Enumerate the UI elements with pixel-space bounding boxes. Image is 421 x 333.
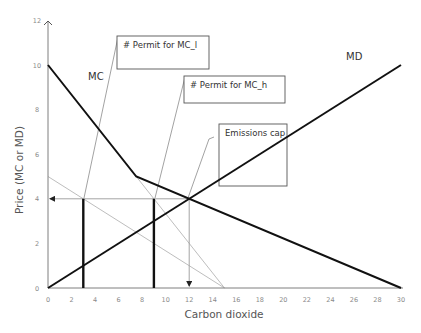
x-tick-label: 8 xyxy=(140,296,144,304)
callout-boxes: # Permit for MC_l# Permit for MC_hEmissi… xyxy=(84,36,287,198)
x-tick-label: 12 xyxy=(185,296,193,304)
y-tick-label: 0 xyxy=(35,285,39,293)
callout-emissions-cap-leader xyxy=(188,137,214,198)
x-tick-label: 10 xyxy=(162,296,170,304)
series-mc-h-line xyxy=(136,177,224,289)
callout-permit-mc-h-leader xyxy=(155,77,185,198)
y-tick-label: 10 xyxy=(33,62,41,70)
x-tick-label: 30 xyxy=(397,296,405,304)
x-tick-label: 16 xyxy=(232,296,240,304)
y-axis-title: Price (MC or MD) xyxy=(13,126,25,214)
callout-permit-mc-l-text: # Permit for MC_l xyxy=(123,40,197,50)
x-tick-label: 0 xyxy=(46,296,50,304)
chart-svg: # Permit for MC_l# Permit for MC_hEmissi… xyxy=(0,0,421,333)
y-tick-label: 8 xyxy=(35,106,39,114)
y-tick-label: 12 xyxy=(33,17,41,25)
x-tick-label: 28 xyxy=(373,296,381,304)
callout-emissions-cap-text: Emissions cap xyxy=(225,128,285,138)
x-tick-label: 6 xyxy=(117,296,121,304)
x-tick-label: 26 xyxy=(350,296,358,304)
mc-label: MC xyxy=(88,71,104,82)
x-tick-label: 4 xyxy=(93,296,97,304)
y-tick-label: 4 xyxy=(35,195,39,203)
x-tick-label: 22 xyxy=(303,296,311,304)
x-axis-title: Carbon dioxide xyxy=(184,308,263,320)
x-tick-label: 18 xyxy=(256,296,264,304)
chart-container: # Permit for MC_l# Permit for MC_hEmissi… xyxy=(0,0,421,333)
y-tick-label: 2 xyxy=(35,240,39,248)
x-tick-label: 14 xyxy=(209,296,217,304)
x-tick-label: 2 xyxy=(69,296,73,304)
x-tick-label: 24 xyxy=(326,296,334,304)
callout-permit-mc-h-text: # Permit for MC_h xyxy=(190,80,267,90)
md-label: MD xyxy=(346,51,363,62)
y-tick-label: 6 xyxy=(35,151,39,159)
x-tick-label: 20 xyxy=(279,296,287,304)
